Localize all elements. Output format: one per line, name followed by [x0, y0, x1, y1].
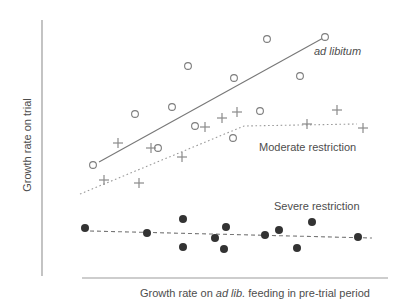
filled-circle-marker	[354, 233, 362, 241]
open-circle-marker	[230, 135, 237, 142]
x-axis-label: Growth rate on ad lib. feeding in pre-tr…	[140, 288, 370, 299]
filled-circle-marker	[179, 243, 187, 251]
open-circle-marker	[169, 104, 176, 111]
x-axis-label-italic: ad lib.	[216, 287, 245, 299]
filled-circle-marker	[308, 218, 316, 226]
series-label-moderate-restriction: Moderate restriction	[259, 142, 356, 153]
series-label-ad-libitum: ad libitum	[314, 46, 361, 57]
open-circle-marker	[90, 162, 97, 169]
open-circle-marker	[132, 111, 139, 118]
x-axis-label-prefix: Growth rate on	[140, 287, 216, 299]
filled-circle-marker	[220, 245, 228, 253]
filled-circle-marker	[143, 229, 151, 237]
y-axis-label: Growth rate on trial	[22, 98, 33, 192]
filled-circle-marker	[211, 234, 219, 242]
filled-circle-marker	[275, 226, 283, 234]
scatter-plot-figure: Growth rate on trial Growth rate on ad l…	[0, 0, 410, 303]
open-circle-marker	[264, 36, 271, 43]
open-circle-marker	[192, 123, 199, 130]
open-circle-marker	[231, 75, 238, 82]
series-label-severe-restriction: Severe restriction	[274, 201, 360, 212]
filled-circle-marker	[81, 224, 89, 232]
filled-circle-marker	[261, 231, 269, 239]
trend-line-dotted	[80, 124, 357, 194]
x-axis-label-suffix: feeding in pre-trial period	[245, 287, 370, 299]
open-circle-marker	[257, 108, 264, 115]
open-circle-marker	[185, 63, 192, 70]
trend-line-dashed	[90, 231, 372, 238]
filled-circle-marker	[293, 244, 301, 252]
filled-circle-marker	[222, 223, 230, 231]
filled-circle-marker	[179, 215, 187, 223]
open-circle-marker	[297, 73, 304, 80]
open-circle-marker	[322, 34, 329, 41]
